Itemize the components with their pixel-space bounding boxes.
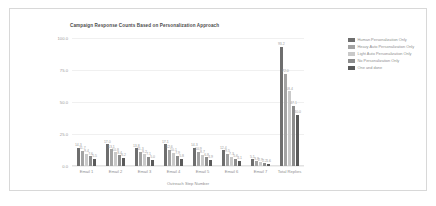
bar-fill [296, 115, 299, 166]
legend-swatch [348, 52, 355, 56]
bar[interactable]: 2.9 [259, 162, 262, 166]
bar-value-label: 17.0 [104, 140, 111, 144]
chart-card: Campaign Response Counts Based on Person… [9, 8, 427, 191]
screenshot-root: Campaign Response Counts Based on Person… [0, 0, 436, 206]
bar-fill [263, 163, 266, 166]
bar-value-label: 4.9 [208, 155, 213, 159]
bar-fill [110, 149, 113, 166]
bar-value-label: 6.2 [121, 153, 126, 157]
legend-label: Light Auto Personalization Only [358, 52, 412, 57]
y-axis-tick-label: 100.0 [58, 36, 68, 41]
bar-fill [280, 47, 283, 166]
legend-swatch [348, 38, 355, 42]
legend-label: One and done [358, 66, 383, 71]
x-axis-tick-label: Email 7 [246, 169, 275, 178]
bar[interactable]: 3.8 [255, 161, 258, 166]
x-axis-tick-label: Email 4 [159, 169, 188, 178]
bar[interactable]: 6.2 [122, 158, 125, 166]
bar-value-label: 93.2 [278, 42, 285, 46]
bar-fill [292, 106, 295, 166]
x-axis-tick-label: Email 5 [188, 169, 217, 178]
gridline [72, 166, 304, 167]
bar[interactable]: 5.8 [180, 159, 183, 166]
x-axis-title: Outreach Step Number [72, 181, 304, 186]
legend-item[interactable]: Heavy Auto Personalization Only [348, 45, 434, 50]
x-axis-tick-label: Email 2 [101, 169, 130, 178]
x-axis-tick-label: Total Replies [275, 169, 304, 178]
legend-label: Heavy Auto Personalization Only [358, 45, 415, 50]
bar[interactable]: 11.3 [139, 152, 142, 166]
bar-group: 14.310.98.76.84.9 [188, 38, 217, 166]
bar-fill [139, 152, 142, 166]
y-axis-tick-label: 0.0 [62, 164, 68, 169]
chart-legend: Human Personalization OnlyHeavy Auto Per… [348, 38, 434, 73]
bar-fill [238, 161, 241, 166]
bar[interactable]: 2.2 [263, 163, 266, 166]
bar-fill [77, 148, 80, 166]
bar-value-label: 5.8 [179, 154, 184, 158]
bar-value-label: 5.5 [92, 154, 97, 158]
bar-fill [151, 160, 154, 166]
bar-fill [209, 160, 212, 166]
legend-swatch [348, 59, 355, 63]
bar-groups: 14.311.79.47.65.517.013.110.88.46.213.81… [72, 38, 304, 166]
bar[interactable]: 14.3 [77, 148, 80, 166]
bar-value-label: 17.1 [162, 140, 169, 144]
bar-group: 14.311.79.47.65.5 [72, 38, 101, 166]
legend-label: Human Personalization Only [358, 38, 407, 43]
bar-fill [267, 164, 270, 166]
y-axis-tick-label: 75.0 [60, 68, 68, 73]
legend-item[interactable]: No Personalization Only [348, 59, 434, 64]
bar-fill [259, 162, 262, 166]
y-axis-tick-label: 50.0 [60, 100, 68, 105]
legend-swatch [348, 45, 355, 49]
bar-group: 12.49.57.35.64.1 [217, 38, 246, 166]
bar[interactable]: 13.1 [110, 149, 113, 166]
bar-fill [180, 159, 183, 166]
bar-value-label: 5.0 [150, 155, 155, 159]
bar-group: 13.811.39.27.15.0 [130, 38, 159, 166]
y-axis-tick-label: 25.0 [60, 132, 68, 137]
bar-value-label: 72.0 [282, 69, 289, 73]
x-axis-tick-label: Email 3 [130, 169, 159, 178]
bar-value-label: 40.0 [294, 110, 301, 114]
legend-label: No Personalization Only [358, 59, 400, 64]
plot-area: 100.075.050.025.00.014.311.79.47.65.517.… [72, 38, 304, 166]
chart-title: Campaign Response Counts Based on Person… [70, 23, 219, 28]
x-axis-tick-label: Email 6 [217, 169, 246, 178]
bar[interactable]: 13.8 [135, 148, 138, 166]
bar-group: 17.112.610.17.95.8 [159, 38, 188, 166]
bar[interactable]: 5.0 [151, 160, 154, 166]
bar[interactable]: 4.1 [238, 161, 241, 166]
bar-fill [85, 154, 88, 166]
bar-value-label: 1.6 [266, 159, 271, 163]
bar-group: 17.013.110.88.46.2 [101, 38, 130, 166]
legend-item[interactable]: Human Personalization Only [348, 38, 434, 43]
bar-value-label: 47.1 [290, 101, 297, 105]
bar[interactable]: 4.9 [209, 160, 212, 166]
bar-value-label: 4.1 [237, 156, 242, 160]
x-axis-tick-label: Email 1 [72, 169, 101, 178]
bar-fill [93, 159, 96, 166]
bar-group: 5.13.82.92.21.6 [246, 38, 275, 166]
bar[interactable]: 93.2 [280, 47, 283, 166]
bar[interactable]: 1.6 [267, 164, 270, 166]
x-axis-tick-labels: Email 1Email 2Email 3Email 4Email 5Email… [72, 169, 304, 178]
bar-fill [122, 158, 125, 166]
bar-value-label: 58.4 [286, 87, 293, 91]
bar-group: 93.272.058.447.140.0 [275, 38, 304, 166]
bar[interactable]: 5.5 [93, 159, 96, 166]
bar[interactable]: 40.0 [296, 115, 299, 166]
legend-item[interactable]: Light Auto Personalization Only [348, 52, 434, 57]
bar-fill [135, 148, 138, 166]
legend-swatch [348, 66, 355, 70]
bar[interactable]: 47.1 [292, 106, 295, 166]
bar-fill [255, 161, 258, 166]
legend-item[interactable]: One and done [348, 66, 434, 71]
bar[interactable]: 9.4 [85, 154, 88, 166]
